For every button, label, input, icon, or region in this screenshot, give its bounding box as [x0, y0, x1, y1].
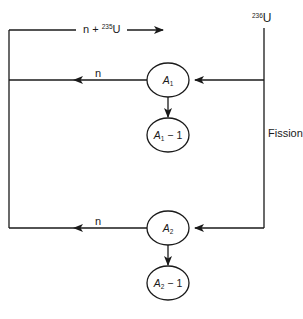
- fission-label: Fission: [268, 128, 303, 139]
- u235-element: U: [113, 23, 121, 35]
- u236-element: U: [263, 11, 272, 25]
- neutron-label-1: n: [95, 68, 101, 79]
- node-a2-label: A2: [163, 223, 174, 236]
- top-flow-label: n + 235U: [83, 24, 120, 35]
- a2-symbol: A: [163, 222, 170, 234]
- a2d-symbol: A: [154, 277, 161, 289]
- neutron-label-2: n: [95, 216, 101, 227]
- a2-index: 2: [170, 228, 174, 235]
- u235-mass-number: 235: [102, 23, 113, 30]
- fission-diagram-canvas: [0, 0, 303, 319]
- a1d-symbol: A: [154, 129, 161, 141]
- a2d-suffix: − 1: [164, 277, 182, 289]
- node-a1-label: A1: [163, 75, 174, 88]
- top-flow-prefix: n +: [83, 23, 102, 35]
- u236-mass-number: 236: [252, 12, 263, 19]
- a1-index: 1: [170, 80, 174, 87]
- node-a2-minus-1-label: A2 − 1: [154, 278, 182, 291]
- a1d-suffix: − 1: [164, 129, 182, 141]
- compound-nucleus-label: 236U: [252, 12, 272, 24]
- node-a1-minus-1-label: A1 − 1: [154, 130, 182, 143]
- a1-symbol: A: [163, 74, 170, 86]
- left-loop-line: [9, 30, 76, 228]
